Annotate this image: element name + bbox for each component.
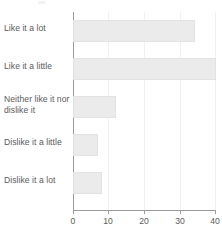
x-tick-label-40: 40 — [203, 216, 222, 226]
x-tick-mark-40 — [215, 210, 216, 214]
title-clipped-mark — [38, 1, 45, 4]
x-tick-label-10: 10 — [96, 216, 120, 226]
category-label-like-it-a-little: Like it a little — [4, 61, 70, 72]
category-label-like-it-a-lot: Like it a lot — [4, 23, 70, 34]
x-tick-label-30: 30 — [168, 216, 192, 226]
x-tick-mark-0 — [73, 210, 74, 214]
x-tick-mark-30 — [180, 210, 181, 214]
bar-dislike-it-a-little — [73, 134, 98, 156]
bar-dislike-it-a-lot — [73, 172, 102, 194]
x-tick-label-20: 20 — [132, 216, 156, 226]
x-tick-label-0: 0 — [61, 216, 85, 226]
bar-neither-like-nor-dislike — [73, 96, 116, 118]
x-tick-mark-20 — [144, 210, 145, 214]
bar-like-it-a-little — [73, 58, 216, 80]
bar-like-it-a-lot — [73, 20, 195, 42]
category-label-neither-like-nor-dislike: Neither like it nor dislike it — [4, 94, 70, 115]
x-tick-mark-10 — [108, 210, 109, 214]
plot-area — [73, 12, 216, 210]
bar-chart: Like it a lot Like it a little Neither l… — [0, 0, 222, 237]
gridline-40 — [215, 12, 216, 210]
category-label-dislike-it-a-lot: Dislike it a lot — [4, 175, 70, 186]
category-axis-labels: Like it a lot Like it a little Neither l… — [0, 12, 69, 210]
category-label-dislike-it-a-little: Dislike it a little — [4, 137, 70, 148]
